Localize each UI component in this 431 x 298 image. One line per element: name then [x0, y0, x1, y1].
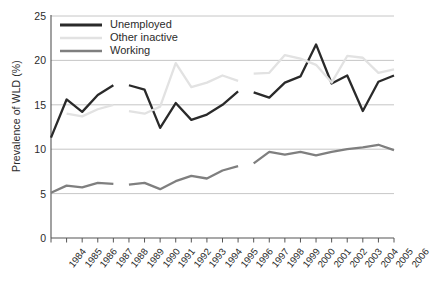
legend-label-working: Working: [110, 44, 150, 56]
legend-label-other-inactive: Other inactive: [110, 31, 178, 43]
legend-label-unemployed: Unemployed: [110, 18, 172, 30]
x-tick-2006: 2006: [409, 246, 431, 270]
